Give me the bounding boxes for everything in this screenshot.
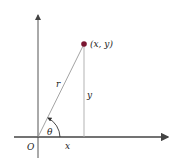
diagram-svg: (x, y) r y θ O x xyxy=(0,0,181,168)
polar-coordinates-diagram: (x, y) r y θ O x xyxy=(0,0,181,168)
radius-line xyxy=(38,44,84,137)
radius-label: r xyxy=(56,79,61,89)
angle-label: θ xyxy=(47,127,53,137)
horizontal-label: x xyxy=(65,141,70,151)
vertical-label: y xyxy=(86,90,93,100)
origin-label: O xyxy=(27,142,35,152)
point-label: (x, y) xyxy=(90,39,113,49)
point-marker xyxy=(81,41,87,47)
